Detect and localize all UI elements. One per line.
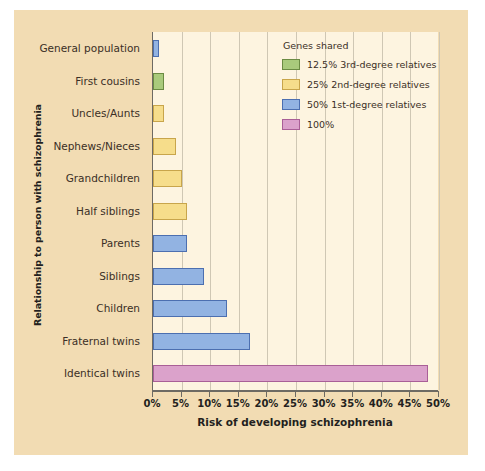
category-label: Fraternal twins [6, 325, 146, 358]
x-axis-title: Risk of developing schizophrenia [152, 416, 438, 428]
schizophrenia-risk-chart: Relationship to person with schizophreni… [0, 0, 485, 471]
bar-row [153, 227, 438, 260]
x-tick-mark [266, 391, 267, 397]
category-label: Grandchildren [6, 162, 146, 195]
legend-swatch-icon [282, 119, 300, 130]
bar-row [153, 260, 438, 293]
category-label: Nephews/Nieces [6, 130, 146, 163]
legend-item[interactable]: 50% 1st-degree relatives [282, 96, 432, 112]
legend-label: 12.5% 3rd-degree relatives [307, 59, 437, 70]
gridline-50 [439, 32, 440, 390]
legend-label: 50% 1st-degree relatives [307, 99, 426, 110]
x-tick-mark [438, 391, 439, 397]
bar[interactable] [153, 268, 204, 285]
bar[interactable] [153, 365, 428, 382]
category-label: Siblings [6, 260, 146, 293]
legend-item[interactable]: 12.5% 3rd-degree relatives [282, 56, 432, 72]
legend-swatch-icon [282, 79, 300, 90]
legend-label: 25% 2nd-degree relatives [307, 79, 430, 90]
category-label: Children [6, 292, 146, 325]
x-tick-mark [409, 391, 410, 397]
category-label: First cousins [6, 65, 146, 98]
category-label: Parents [6, 227, 146, 260]
x-tick-mark [152, 391, 153, 397]
x-tick-mark [295, 391, 296, 397]
legend: Genes shared 12.5% 3rd-degree relatives2… [282, 40, 432, 136]
bar-row [153, 292, 438, 325]
legend-item[interactable]: 100% [282, 116, 432, 132]
bar[interactable] [153, 138, 176, 155]
x-tick-label: 50% [418, 398, 458, 409]
bar[interactable] [153, 300, 227, 317]
legend-item[interactable]: 25% 2nd-degree relatives [282, 76, 432, 92]
x-tick-mark [381, 391, 382, 397]
bar[interactable] [153, 105, 164, 122]
bar-row [153, 325, 438, 358]
category-label: Half siblings [6, 195, 146, 228]
x-tick-mark [324, 391, 325, 397]
category-label: General population [6, 32, 146, 65]
legend-label: 100% [307, 119, 334, 130]
bar-row [153, 357, 438, 390]
category-label: Identical twins [6, 357, 146, 390]
bar[interactable] [153, 235, 187, 252]
bar[interactable] [153, 203, 187, 220]
bar-row [153, 162, 438, 195]
x-tick-mark [209, 391, 210, 397]
legend-swatch-icon [282, 99, 300, 110]
category-label: Uncles/Aunts [6, 97, 146, 130]
bar-row [153, 195, 438, 228]
legend-title: Genes shared [283, 40, 432, 51]
bar[interactable] [153, 170, 182, 187]
bar[interactable] [153, 333, 250, 350]
bar[interactable] [153, 40, 159, 57]
x-tick-mark [238, 391, 239, 397]
legend-swatch-icon [282, 59, 300, 70]
x-tick-mark [352, 391, 353, 397]
bar[interactable] [153, 73, 164, 90]
legend-items: 12.5% 3rd-degree relatives25% 2nd-degree… [282, 56, 432, 132]
x-tick-mark [181, 391, 182, 397]
